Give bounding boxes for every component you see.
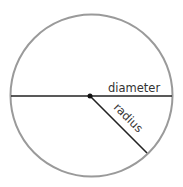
circle-diagram: diameter radius bbox=[0, 0, 183, 187]
radius-label: radius bbox=[111, 100, 146, 135]
diameter-label: diameter bbox=[108, 81, 160, 95]
center-point bbox=[88, 94, 93, 99]
